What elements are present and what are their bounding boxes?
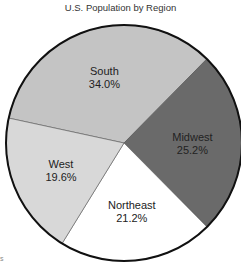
pie-chart: South34.0%Midwest25.2%Northeast21.2%West…	[0, 0, 241, 270]
slice-label-midwest: Midwest	[172, 131, 212, 143]
footnote-glyph: s	[0, 255, 4, 262]
slice-label-south: South	[90, 65, 119, 77]
slice-label-northeast: Northeast	[108, 199, 156, 211]
slice-label-west: West	[49, 158, 74, 170]
slice-value-south: 34.0%	[89, 78, 120, 90]
slice-value-west: 19.6%	[45, 171, 76, 183]
slice-value-northeast: 21.2%	[116, 212, 147, 224]
slice-value-midwest: 25.2%	[177, 144, 208, 156]
